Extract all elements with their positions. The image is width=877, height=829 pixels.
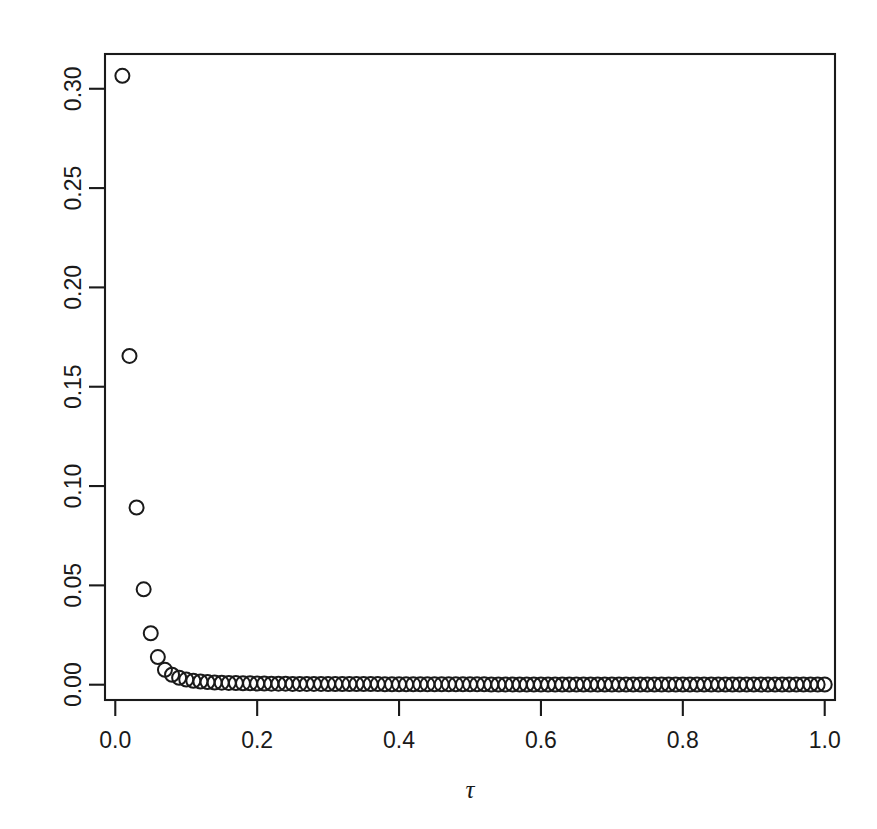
x-tick-label: 0.2 <box>241 727 273 753</box>
data-point <box>144 626 158 640</box>
figure-container: 0.00.20.40.60.81.0 0.000.050.100.150.200… <box>0 0 877 829</box>
x-axis-tick-labels: 0.00.20.40.60.81.0 <box>99 727 840 753</box>
data-point <box>151 650 165 664</box>
y-tick-label: 0.00 <box>60 662 86 707</box>
x-axis-ticks <box>115 700 824 716</box>
x-axis-title: τ <box>466 776 476 803</box>
y-tick-label: 0.15 <box>60 364 86 409</box>
data-point <box>130 501 144 515</box>
y-tick-label: 0.30 <box>60 66 86 111</box>
data-point <box>115 69 129 83</box>
y-tick-label: 0.05 <box>60 563 86 608</box>
y-axis-ticks <box>89 89 105 685</box>
x-tick-label: 0.0 <box>99 727 131 753</box>
data-point <box>122 349 136 363</box>
x-tick-label: 0.6 <box>525 727 557 753</box>
y-tick-label: 0.20 <box>60 265 86 310</box>
scatter-plot: 0.00.20.40.60.81.0 0.000.050.100.150.200… <box>0 0 877 829</box>
y-tick-label: 0.10 <box>60 464 86 509</box>
x-tick-label: 0.4 <box>383 727 415 753</box>
y-axis-tick-labels: 0.000.050.100.150.200.250.30 <box>60 66 86 707</box>
y-tick-label: 0.25 <box>60 166 86 211</box>
x-tick-label: 1.0 <box>809 727 841 753</box>
data-point <box>137 582 151 596</box>
plot-frame <box>105 54 835 700</box>
x-tick-label: 0.8 <box>667 727 699 753</box>
data-points <box>115 69 831 692</box>
